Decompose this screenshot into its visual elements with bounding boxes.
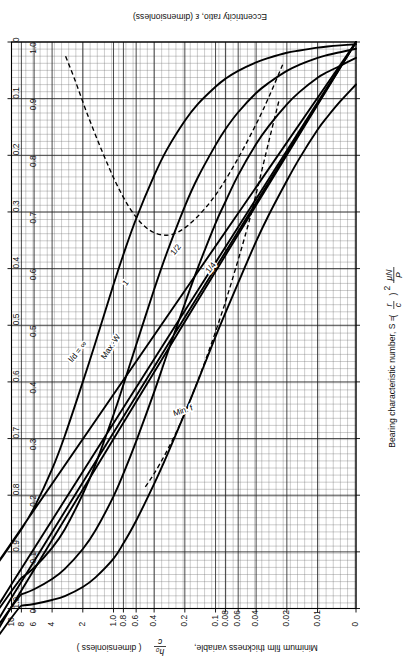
viscosity-speed-numerator: μN: [384, 269, 394, 282]
film-thickness-frac-numerator: h₀: [155, 647, 164, 657]
xtick-label-8: 0.4: [148, 615, 158, 627]
bearing-number-axis-title: Bearing characteristic number, S =: [387, 316, 397, 448]
eccentricity-tick-label-2: 0.8: [28, 155, 38, 167]
xtick-label-0: 0: [350, 622, 360, 627]
xtick-label-12: 2: [77, 622, 87, 627]
film-thickness-tick-label-2: 0.2: [11, 143, 21, 155]
ratio-denominator: c: [393, 302, 403, 307]
paren-close: ): [388, 292, 398, 295]
eccentricity-tick-label-8: 0.2: [28, 495, 38, 507]
ratio-exponent: 2: [382, 285, 392, 290]
eccentricity-tick-label-3: 0.7: [28, 212, 38, 224]
film-thickness-tick-label-1: 0.1: [11, 87, 21, 99]
film-thickness-tick-label-4: 0.4: [11, 257, 21, 269]
eccentricity-tick-label-4: 0.6: [28, 268, 38, 280]
eccentricity-tick-label-1: 0.9: [28, 98, 38, 110]
pressure-denominator: P: [394, 272, 404, 278]
film-thickness-axis-trail: ( dimensionless ): [76, 643, 141, 653]
chart-background: [0, 0, 417, 670]
film-thickness-tick-label-0: 0: [11, 37, 21, 42]
film-thickness-tick-label-5: 0.5: [11, 313, 21, 325]
xtick-label-1: 0.01: [312, 610, 322, 627]
film-thickness-tick-label-10: 1.0: [11, 597, 21, 609]
xtick-label-16: 10: [6, 617, 16, 627]
xtick-label-7: 0.2: [179, 615, 189, 627]
film-thickness-frac-denominator: c: [157, 637, 162, 647]
film-thickness-tick-label-9: 0.9: [11, 540, 21, 552]
paren-open: (: [388, 314, 398, 317]
xtick-label-11: 1.0: [108, 615, 118, 627]
xtick-label-13: 4: [46, 622, 56, 627]
xtick-label-14: 6: [28, 622, 38, 627]
film-thickness-tick-label-6: 0.6: [11, 370, 21, 382]
xtick-label-10: 0.8: [118, 615, 128, 627]
film-thickness-axis-title: Minimum film thickness variable,: [194, 643, 318, 653]
film-thickness-tick-label-3: 0.3: [11, 200, 21, 212]
raimondi-boyd-chart-svg: l/d = ∞11/21/4 Max. WMin. f 00.010.020.0…: [0, 0, 417, 670]
xtick-label-4: 0.06: [232, 610, 242, 627]
eccentricity-tick-label-9: 0.1: [28, 552, 38, 564]
xtick-label-2: 0.02: [281, 610, 291, 627]
eccentricity-tick-label-7: 0.3: [28, 438, 38, 450]
film-thickness-tick-label-7: 0.7: [11, 427, 21, 439]
eccentricity-tick-label-0: 1.0: [28, 42, 38, 54]
xtick-label-3: 0.04: [250, 610, 260, 627]
eccentricity-tick-label-5: 0.5: [28, 325, 38, 337]
film-thickness-tick-label-8: 0.8: [11, 483, 21, 495]
xtick-label-9: 0.6: [130, 615, 140, 627]
xtick-label-15: 8: [16, 622, 26, 627]
xtick-label-6: 0.1: [210, 615, 220, 627]
xtick-label-5: 0.08: [220, 610, 230, 627]
chart-figure: l/d = ∞11/21/4 Max. WMin. f 00.010.020.0…: [0, 0, 417, 670]
eccentricity-axis-title: Eccentricity ratio, ε (dimensionless): [133, 12, 267, 22]
eccentricity-tick-label-10: 0: [28, 608, 38, 613]
eccentricity-tick-label-6: 0.4: [28, 382, 38, 394]
